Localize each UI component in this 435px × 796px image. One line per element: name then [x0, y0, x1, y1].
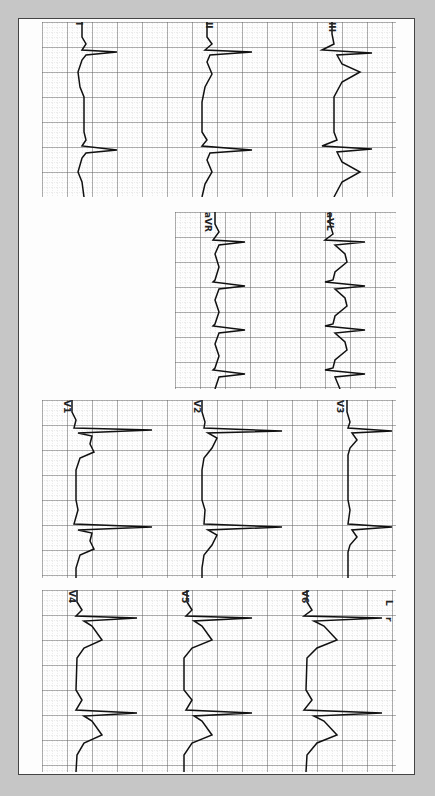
lead-label: V6 — [300, 590, 310, 603]
ecg-block-3: V1 V2 V3 — [42, 400, 396, 578]
lead-label: V3 — [335, 400, 345, 413]
lead-label: aVR — [203, 212, 213, 232]
side-mark: r — [384, 617, 394, 621]
lead-label: aVL — [325, 212, 335, 231]
ecg-grid-block-2 — [175, 212, 396, 389]
ecg-block-4: V4 V5 V6 L r — [42, 590, 396, 772]
lead-label: I — [74, 22, 84, 25]
lead-label: V2 — [192, 400, 202, 413]
ecg-grid-block-3 — [42, 400, 396, 578]
lead-label: V1 — [62, 400, 72, 413]
ecg-grid-block-4 — [42, 590, 396, 772]
side-mark: L — [384, 600, 394, 606]
ecg-block-1: I II III — [42, 22, 396, 197]
ecg-grid-block-1 — [42, 22, 396, 197]
ecg-block-2: aVR aVL — [175, 212, 396, 389]
lead-label: V5 — [180, 590, 190, 603]
lead-label: II — [204, 22, 214, 29]
lead-label: V4 — [67, 590, 77, 603]
lead-label: III — [327, 22, 337, 32]
